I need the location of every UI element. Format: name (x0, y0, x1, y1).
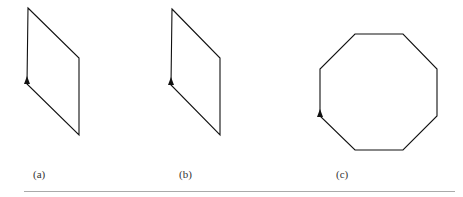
arrow-up-icon (317, 109, 323, 117)
label-b: (b) (179, 168, 192, 180)
octagon-c (320, 34, 437, 150)
divider-line (24, 191, 455, 192)
diagram-canvas (0, 0, 463, 197)
label-c: (c) (336, 168, 348, 180)
label-a: (a) (33, 168, 45, 180)
figure-panel: (a) (b) (c) (0, 0, 463, 197)
arrow-up-icon (168, 77, 174, 85)
arrow-up-icon (24, 76, 30, 84)
parallelogram-b (171, 9, 220, 135)
parallelogram-a (27, 8, 79, 135)
